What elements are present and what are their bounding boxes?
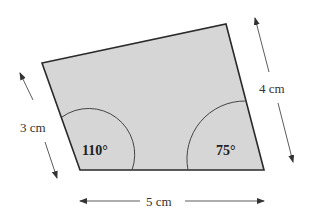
dimension-label-right: 4 cm <box>259 81 285 96</box>
angle-label-75: 75° <box>216 143 236 158</box>
dimension-arrow-left-upper <box>20 73 33 100</box>
dimension-arrow-left-lower <box>45 142 57 178</box>
quadrilateral-diagram: 110° 75° 3 cm 4 cm 5 cm <box>0 0 310 216</box>
dimension-label-bottom: 5 cm <box>146 194 172 209</box>
dimension-arrow-right-upper <box>255 18 269 72</box>
dimension-label-left: 3 cm <box>20 120 46 135</box>
angle-label-110: 110° <box>82 143 108 158</box>
dimension-arrow-right-lower <box>278 103 293 162</box>
